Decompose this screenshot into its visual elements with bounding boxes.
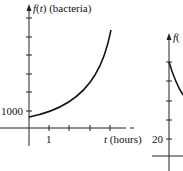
left-chart: f(t) (bacteria) 1000 1 t (hours) [0,2,142,146]
growth-curve [29,30,111,117]
left-y-arrow-icon [27,4,32,11]
left-y-label: f(t) (bacteria) [33,2,92,15]
left-ytick-label: 1000 [1,105,24,117]
right-ytick-label: 20 [152,133,164,145]
decay-curve [169,62,183,95]
charts-figure: f(t) (bacteria) 1000 1 t (hours) f( 20 [0,0,183,171]
left-xtick-label: 1 [46,133,52,145]
left-x-label: t (hours) [104,133,142,146]
right-chart: f( 20 [152,31,183,171]
right-y-arrow-icon [167,33,172,40]
right-y-label: f( [173,31,180,44]
